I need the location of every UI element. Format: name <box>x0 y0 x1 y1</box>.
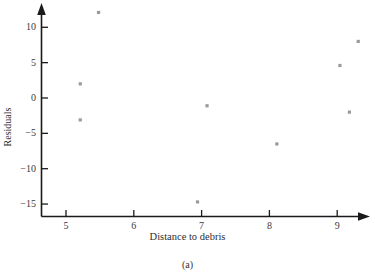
x-axis-title: Distance to debris <box>0 232 375 243</box>
y-axis-tick-label: −15 <box>0 199 36 209</box>
data-point <box>79 82 82 85</box>
x-axis-ticks <box>66 210 337 217</box>
data-point <box>275 142 278 145</box>
data-point <box>97 11 100 14</box>
data-point <box>348 111 351 114</box>
figure-caption: (a) <box>0 260 375 270</box>
data-point-group <box>79 11 360 204</box>
y-axis-tick-label: 10 <box>0 22 36 32</box>
x-axis-tick-label: 5 <box>64 221 69 231</box>
data-point <box>205 104 208 107</box>
scatter-plot-figure: 1050−5−10−15 56789 Residuals Distance to… <box>0 0 375 279</box>
y-axis-tick-label: 5 <box>0 58 36 68</box>
x-axis-tick-label: 8 <box>267 221 272 231</box>
data-point <box>196 200 199 203</box>
data-point <box>357 40 360 43</box>
y-axis-arrowhead <box>37 3 46 15</box>
data-point <box>338 64 341 67</box>
x-axis-tick-label: 6 <box>131 221 136 231</box>
x-axis-tick-label: 9 <box>335 221 340 231</box>
x-axis-arrowhead <box>358 212 370 221</box>
data-point <box>79 118 82 121</box>
y-axis-tick-label: −10 <box>0 164 36 174</box>
y-axis-ticks <box>42 27 49 204</box>
x-axis-tick-label: 7 <box>199 221 204 231</box>
y-axis-title: Residuals <box>3 97 13 157</box>
